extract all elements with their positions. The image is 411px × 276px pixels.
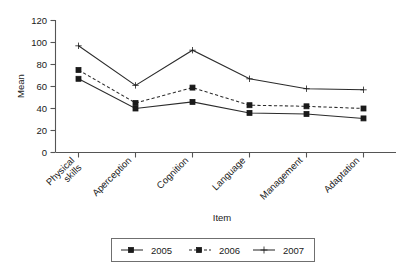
legend-label-2007: 2007 bbox=[283, 245, 304, 256]
series-line-2005 bbox=[79, 79, 364, 119]
data-point-2006-4 bbox=[304, 104, 309, 109]
data-point-2007-2 bbox=[189, 47, 195, 53]
x-label-language-line1: Language bbox=[210, 155, 248, 193]
data-point-2005-0 bbox=[76, 76, 81, 81]
y-tick-label-100: 100 bbox=[31, 37, 47, 48]
data-point-2007-5 bbox=[360, 87, 366, 93]
legend-marker-square-icon-2006 bbox=[197, 248, 202, 253]
chart-figure: 120 100 80 60 40 20 0 Mean bbox=[0, 0, 411, 276]
x-label-aperception: Aperception bbox=[90, 155, 134, 199]
y-tick-label-40: 40 bbox=[36, 103, 47, 114]
line-chart: 120 100 80 60 40 20 0 Mean bbox=[0, 0, 411, 276]
y-tick-label-120: 120 bbox=[31, 15, 47, 26]
series-layer bbox=[75, 43, 366, 121]
x-label-management-line1: Management bbox=[257, 154, 304, 201]
x-label-physical-skills: Physical skills bbox=[44, 154, 84, 194]
chart-legend: 2005 2006 2007 bbox=[112, 239, 315, 262]
x-label-management: Management bbox=[257, 154, 304, 201]
data-point-2005-3 bbox=[247, 110, 252, 115]
data-point-2006-3 bbox=[247, 103, 252, 108]
series-line-2007 bbox=[79, 46, 364, 90]
x-axis-category-labels: Physical skills Aperception Cognition La… bbox=[44, 154, 362, 201]
legend-label-2006: 2006 bbox=[219, 245, 240, 256]
data-point-2007-0 bbox=[75, 43, 81, 49]
x-label-cognition-line1: Cognition bbox=[154, 155, 190, 191]
data-point-2007-1 bbox=[132, 82, 138, 88]
data-point-2006-5 bbox=[361, 106, 366, 111]
y-tick-label-60: 60 bbox=[36, 81, 47, 92]
legend-marker-square-icon-2005 bbox=[129, 248, 134, 253]
data-point-2006-1 bbox=[133, 101, 138, 106]
data-point-2006-0 bbox=[76, 68, 81, 73]
x-label-cognition: Cognition bbox=[154, 155, 190, 191]
y-axis-ticks: 120 100 80 60 40 20 0 bbox=[31, 15, 55, 158]
y-tick-label-20: 20 bbox=[36, 125, 47, 136]
y-axis-title: Mean bbox=[15, 74, 26, 98]
data-point-2005-1 bbox=[133, 106, 138, 111]
x-axis-title: Item bbox=[213, 212, 232, 223]
x-label-adaptation-line1: Adaptation bbox=[322, 155, 362, 195]
data-point-2005-2 bbox=[190, 99, 195, 104]
data-point-2005-5 bbox=[361, 116, 366, 121]
series-2007 bbox=[75, 43, 366, 93]
data-point-2006-2 bbox=[190, 85, 195, 90]
data-point-2007-3 bbox=[246, 76, 252, 82]
y-tick-label-80: 80 bbox=[36, 59, 47, 70]
data-point-2005-4 bbox=[304, 112, 309, 117]
x-label-aperception-line1: Aperception bbox=[90, 155, 134, 199]
x-axis-ticks bbox=[79, 153, 364, 158]
legend-label-2005: 2005 bbox=[151, 245, 172, 256]
data-point-2007-4 bbox=[303, 86, 309, 92]
x-label-language: Language bbox=[210, 155, 248, 193]
x-label-adaptation: Adaptation bbox=[322, 155, 362, 195]
y-tick-label-0: 0 bbox=[42, 147, 47, 158]
series-2005 bbox=[76, 76, 366, 121]
